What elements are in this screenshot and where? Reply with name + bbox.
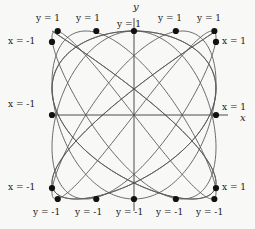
x-axis-label: x <box>240 112 246 123</box>
plot-canvas <box>0 0 255 229</box>
tangency-dot <box>211 28 217 34</box>
tangency-dot <box>211 196 217 202</box>
tangency-dot <box>213 112 219 118</box>
tangency-dot <box>49 112 55 118</box>
tangency-label-right-1: x = 1 <box>222 102 246 112</box>
tangency-dot <box>173 196 179 202</box>
tangency-label-bottom-2: y = -1 <box>116 207 143 217</box>
tangency-label-top-0: y = 1 <box>36 13 60 23</box>
tangency-label-left-2: x = -1 <box>8 182 35 192</box>
tangency-dot <box>213 185 219 191</box>
tangency-label-top-4: y = 1 <box>197 13 221 23</box>
tangency-dot <box>93 28 99 34</box>
tangency-dot <box>213 39 219 45</box>
tangency-label-right-2: x = 1 <box>222 182 246 192</box>
tangency-dot <box>49 39 55 45</box>
lissajous-figure: y x y = 1y = 1y = 1y = 1y = 1y = -1y = -… <box>0 0 255 229</box>
tangency-dot <box>55 28 61 34</box>
tangency-label-bottom-3: y = -1 <box>156 207 183 217</box>
tangency-dot <box>55 196 61 202</box>
tangency-dot <box>173 28 179 34</box>
tangency-dot <box>131 196 137 202</box>
tangency-label-top-2: y = 1 <box>117 19 141 29</box>
tangency-label-bottom-1: y = -1 <box>75 207 102 217</box>
tangency-label-left-0: x = -1 <box>8 36 35 46</box>
tangency-dot <box>93 196 99 202</box>
tangency-label-bottom-0: y = -1 <box>33 207 60 217</box>
tangency-label-top-3: y = 1 <box>158 13 182 23</box>
tangency-label-top-1: y = 1 <box>76 13 100 23</box>
tangency-dot <box>49 185 55 191</box>
tangency-label-right-0: x = 1 <box>222 36 246 46</box>
tangency-label-left-1: x = -1 <box>8 99 35 109</box>
y-axis-label: y <box>133 1 139 12</box>
tangency-label-bottom-4: y = -1 <box>196 207 223 217</box>
